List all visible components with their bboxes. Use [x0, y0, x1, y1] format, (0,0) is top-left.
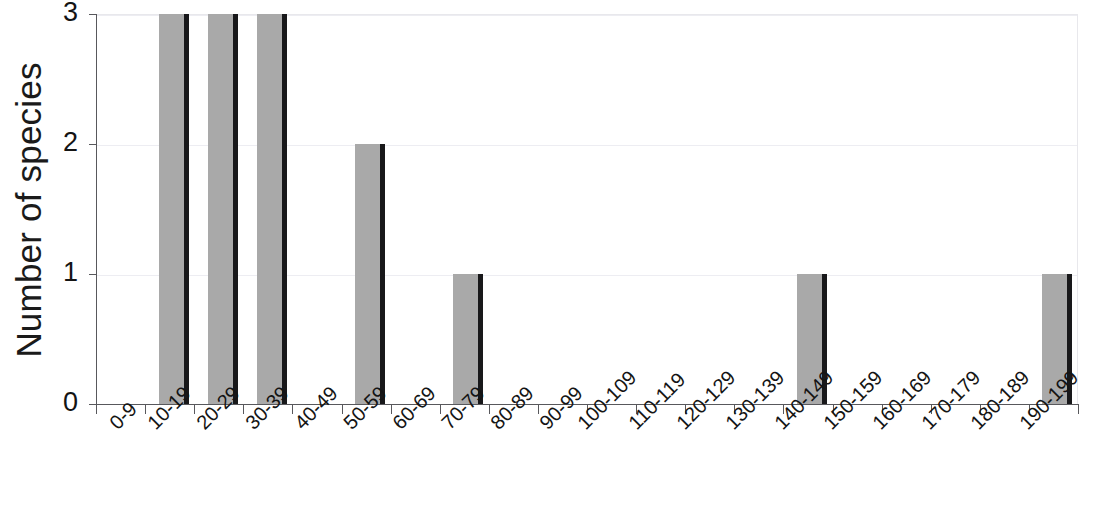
x-tick-mark [194, 405, 195, 414]
bar [159, 14, 189, 404]
bar [257, 14, 287, 404]
bar [355, 144, 385, 404]
y-axis-line [96, 14, 97, 405]
gridline [96, 145, 1077, 146]
y-tick-label: 2 [38, 129, 78, 156]
gridline [96, 15, 1077, 16]
y-tick-mark [89, 274, 97, 275]
gridline [96, 275, 1077, 276]
y-tick-label: 0 [38, 389, 78, 416]
y-tick-label: 1 [38, 259, 78, 286]
y-tick-mark [89, 144, 97, 145]
x-tick-mark [292, 405, 293, 414]
y-axis-title: Number of species [0, 0, 58, 420]
bar [453, 274, 483, 404]
bar [208, 14, 238, 404]
x-tick-mark [145, 405, 146, 414]
chart-figure: Number of species 0123 0-910-1920-2930-3… [0, 0, 1095, 518]
x-tick-mark [96, 405, 97, 414]
x-tick-mark [243, 405, 244, 414]
y-tick-mark [89, 14, 97, 15]
x-tick-mark [1078, 405, 1079, 414]
plot-area [96, 14, 1078, 404]
y-tick-label: 3 [38, 0, 78, 26]
